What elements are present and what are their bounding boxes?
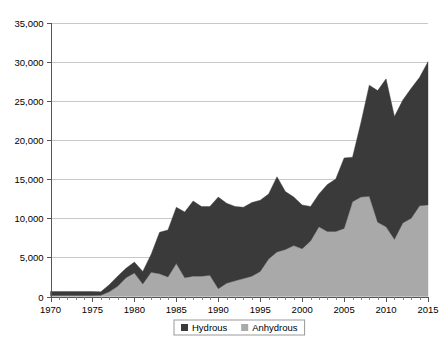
x-axis-tick-label: 2005 — [334, 304, 355, 315]
x-axis-tick-label: 1985 — [166, 304, 187, 315]
legend-label-anhydrous: Anhydrous — [252, 322, 298, 333]
y-axis-tick-label: 5,000 — [20, 252, 44, 263]
area-chart: 05,00010,00015,00020,00025,00030,00035,0… — [0, 0, 443, 345]
y-axis-tick-label: 20,000 — [14, 135, 43, 146]
x-axis-tick-label: 2010 — [375, 304, 396, 315]
x-axis-tick-label: 1980 — [124, 304, 145, 315]
chart-legend: HydrousAnhydrous — [174, 320, 305, 335]
y-axis-tick-label: 35,000 — [14, 18, 43, 29]
y-axis-tick-label: 15,000 — [14, 174, 43, 185]
y-axis-tick-label: 10,000 — [14, 213, 43, 224]
x-axis-tick-label: 2015 — [417, 304, 438, 315]
y-axis-tick-label: 25,000 — [14, 96, 43, 107]
x-axis-tick-label: 1975 — [82, 304, 103, 315]
legend-swatch-hydrous — [181, 324, 188, 331]
x-axis-tick-label: 2000 — [292, 304, 313, 315]
x-axis-tick-label: 1970 — [40, 304, 61, 315]
legend-swatch-anhydrous — [241, 324, 248, 331]
y-axis-tick-label: 30,000 — [14, 57, 43, 68]
y-axis-tick-label: 0 — [38, 292, 43, 303]
legend-label-hydrous: Hydrous — [192, 322, 228, 333]
chart-container: 05,00010,00015,00020,00025,00030,00035,0… — [0, 0, 443, 345]
x-axis-tick-label: 1995 — [250, 304, 271, 315]
x-axis-tick-label: 1990 — [208, 304, 229, 315]
